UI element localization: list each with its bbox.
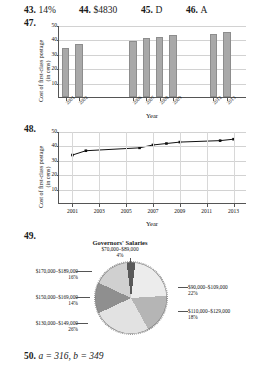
answer-value-44: $4830 [93,4,117,16]
pie-chart-49-slice-percent: 4% [78,252,162,258]
line-chart-48-x-tick-label: 2001 [67,208,78,214]
pie-chart-49-slice-range: $130,000–$149,000 [36,320,78,326]
line-chart-48-x-tick-label: 2005 [121,208,132,214]
answer-number-43: 43. [24,4,36,16]
bar-chart-47: Cost of first-class postage (in cens) 10… [24,24,259,122]
bar-chart-47-y-tick-label: 20 [52,66,58,72]
bar-chart-47-gridline [59,55,246,56]
answer-number-50: 50. [24,350,36,362]
line-chart-48-vertical-gridline [207,132,208,203]
line-chart-48-plot-area: 10203040502001200320052007200920112013 [58,132,246,204]
pie-chart-49-slice-label: $170,000–$189,00016% [14,268,78,280]
line-chart-48-x-tick-label: 2007 [148,208,159,214]
line-chart-48-x-tickmark [72,204,73,207]
answer-value-46: A [200,4,207,16]
line-chart-48-x-tick-label: 2011 [201,208,212,214]
line-chart-48-vertical-gridline [99,132,100,203]
pie-chart-49-leader-line [76,271,92,272]
line-chart-48-x-tickmark [153,204,154,207]
line-chart-48-x-tickmark [99,204,100,207]
bar-chart-47-bar [62,48,69,97]
pie-chart-49-slice-label: $150,000–$169,00014% [4,294,78,306]
bar-chart-47-bar [143,38,150,97]
bar-chart-47-bar [169,35,176,97]
bar-chart-47-bar [129,41,136,97]
line-chart-48-vertical-gridline [180,132,181,203]
pie-chart-49-slice-percent: 26% [6,326,78,332]
pie-chart-49-leader-line [76,297,90,298]
line-chart-48-x-tickmark [234,204,235,207]
line-chart-48-vertical-gridline [234,132,235,203]
bar-chart-47-gridline [59,26,246,27]
pie-chart-49-slice-percent: 16% [14,274,78,280]
line-chart-48-x-axis-label: Year [58,220,246,227]
bar-chart-47-bar [223,32,230,97]
bar-chart-47-y-tick-label: 10 [52,81,58,87]
line-chart-48-x-tick-label: 2013 [228,208,239,214]
answer-value-45: D [155,4,162,16]
line-chart-48-x-tickmark [180,204,181,207]
answer-number-44: 44. [79,4,91,16]
line-chart-48-y-tick-label: 10 [52,187,58,193]
line-chart-48-vertical-gridline [72,132,73,203]
answer-item-44: 44. $4830 [79,4,141,16]
answer-number-46: 46. [186,4,198,16]
bar-chart-47-x-axis-label: Year [58,112,246,119]
pie-chart-49-slice-percent: 14% [4,300,78,306]
line-chart-48-x-tick-label: 2009 [174,208,185,214]
bar-chart-47-y-tick-label: 50 [52,23,58,29]
pie-chart-49-leader-line [130,258,131,263]
line-chart-48-x-tickmark [126,204,127,207]
bar-chart-47-gridline [59,69,246,70]
line-chart-48-x-tick-label: 2003 [94,208,105,214]
line-chart-48-y-tick-label: 20 [52,172,58,178]
answer-key-page: 43. 14% 44. $4830 45. D 46. A 47. Cost o… [0,0,259,370]
pie-chart-49-slice-label: $70,000–$89,0004% [78,246,162,258]
bar-chart-47-bar [210,34,217,97]
answer-item-45: 45. D [141,4,186,16]
page-top-cutoff-text [118,0,258,2]
line-chart-48-x-tickmark [207,204,208,207]
pie-chart-49-leader-line [178,311,188,312]
line-chart-48-vertical-gridline [153,132,154,203]
pie-chart-49-slice-range: $70,000–$89,000 [101,246,138,252]
bar-chart-47-y-axis-label: Cost of first-class postage (in cens) [38,36,52,106]
answer-value-50: a = 316, b = 349 [38,350,103,362]
pie-chart-49-slice-percent: 22% [188,290,258,296]
bar-chart-47-gridline [59,40,246,41]
answer-item-43: 43. 14% [24,4,79,16]
pie-chart-49-slice-label: $110,000–$129,00018% [188,308,258,320]
line-chart-48-y-tick-label: 40 [52,144,58,150]
bar-chart-47-y-tick-label: 40 [52,38,58,44]
pie-chart-49-slice-label: $90,000–$109,00022% [188,284,258,296]
pie-chart-49-leader-line [178,287,188,288]
answer-number-45: 45. [141,4,153,16]
pie-chart-49-title: Governors' Salaries [60,239,180,246]
answers-row-43-46: 43. 14% 44. $4830 45. D 46. A [24,4,259,16]
answer-value-43: 14% [38,4,55,16]
bar-chart-47-bar [156,37,163,97]
exercise-number-49: 49. [24,231,36,241]
bar-chart-47-bar [75,44,82,97]
pie-chart-49-slice-range: $90,000–$109,000 [188,284,228,290]
pie-chart-49-leader-line [76,323,88,324]
pie-chart-49-wedges [95,262,167,334]
pie-chart-49-slice-percent: 18% [188,314,258,320]
bar-chart-47-gridline [59,84,246,85]
answer-item-46: 46. A [186,4,231,16]
pie-chart-49-slice-label: $130,000–$149,00026% [6,320,78,332]
line-chart-48-y-axis-label: Cost of first-class postage (in cens) [38,142,52,212]
line-chart-48-vertical-gridline [126,132,127,203]
pie-chart-49-slice-range: $170,000–$189,000 [36,268,78,274]
bar-chart-47-y-tick-label: 30 [52,52,58,58]
pie-chart-49-slice-range: $150,000–$169,000 [36,294,78,300]
pie-chart-49-slice-range: $110,000–$129,000 [188,308,230,314]
line-chart-48-y-tick-label: 30 [52,158,58,164]
line-chart-48: Cost of first-class postage (in cens) 10… [24,130,259,228]
answer-item-50: 50. a = 316, b = 349 [24,350,103,362]
bar-chart-47-plot-area: 1020304050200120022006200720082009201220… [58,26,246,98]
line-chart-48-y-tick-label: 50 [52,129,58,135]
